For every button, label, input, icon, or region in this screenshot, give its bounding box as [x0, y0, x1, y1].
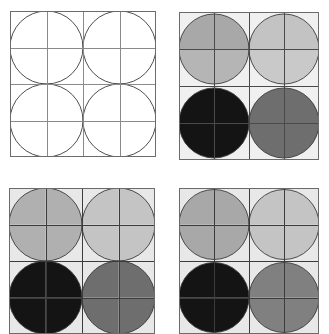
circle-1: [82, 188, 155, 261]
panel-bottom-left-canvas: [9, 188, 155, 334]
panel-top-right: [179, 12, 319, 160]
circle-3: [82, 261, 155, 334]
panel-bottom-right: [179, 188, 319, 334]
circle-2: [9, 261, 82, 334]
panel-top-right-canvas: [179, 12, 319, 160]
panel-bottom-right-canvas: [179, 188, 319, 334]
circle-0: [9, 188, 82, 261]
panel-bottom-left: [9, 188, 155, 334]
circle-3: [83, 84, 156, 157]
circle-1: [83, 11, 156, 84]
panel-top-left-canvas: [10, 11, 156, 157]
circle-0: [10, 11, 83, 84]
circle-2: [10, 84, 83, 157]
panel-top-left: [10, 11, 156, 157]
